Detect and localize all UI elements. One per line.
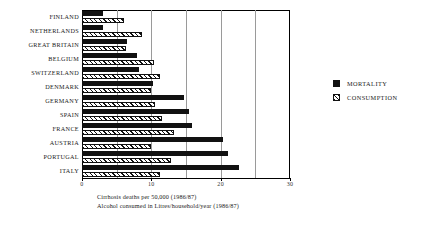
category-label: BELGIUM <box>0 52 79 66</box>
bar-pair <box>82 38 290 52</box>
bar-mortality <box>82 123 192 128</box>
legend-label-consumption: CONSUMPTION <box>347 94 397 101</box>
bar-pair <box>82 108 290 122</box>
category-label: FINLAND <box>0 10 79 24</box>
x-axis-tick-label: 30 <box>287 181 294 187</box>
bar-chart: 0102030 FINLANDNETHERLANDSGREAT BRITAINB… <box>0 0 441 226</box>
bar-mortality <box>82 11 103 16</box>
bar-consumption <box>82 74 160 79</box>
bar-mortality <box>82 165 239 170</box>
bar-pair <box>82 164 290 178</box>
bar-consumption <box>82 18 124 23</box>
bar-consumption <box>82 172 160 177</box>
x-axis-tick-label: 0 <box>80 181 83 187</box>
chart-caption: Cirrhosis deaths per 50,000 (1986/87) Al… <box>97 192 397 210</box>
bar-pair <box>82 94 290 108</box>
category-label: NETHERLANDS <box>0 24 79 38</box>
bar-consumption <box>82 130 174 135</box>
bar-mortality <box>82 53 137 58</box>
bar-row: PORTUGAL <box>0 150 441 164</box>
bar-row: ITALY <box>0 164 441 178</box>
bar-mortality <box>82 151 228 156</box>
bar-consumption <box>82 32 142 37</box>
bar-consumption <box>82 144 151 149</box>
bar-consumption <box>82 88 151 93</box>
bar-consumption <box>82 158 171 163</box>
bar-pair <box>82 24 290 38</box>
bar-consumption <box>82 60 154 65</box>
category-label: PORTUGAL <box>0 150 79 164</box>
bar-pair <box>82 136 290 150</box>
legend: MORTALITY CONSUMPTION <box>333 80 437 108</box>
category-label: FRANCE <box>0 122 79 136</box>
x-axis-tick-label: 10 <box>148 181 155 187</box>
bar-mortality <box>82 137 223 142</box>
legend-item-mortality: MORTALITY <box>333 80 437 87</box>
category-label: GERMANY <box>0 94 79 108</box>
bar-mortality <box>82 67 139 72</box>
bar-consumption <box>82 116 162 121</box>
bar-mortality <box>82 81 153 86</box>
bar-row: FINLAND <box>0 10 441 24</box>
bar-mortality <box>82 39 127 44</box>
legend-swatch-solid-icon <box>333 80 340 87</box>
bar-pair <box>82 80 290 94</box>
bar-consumption <box>82 46 126 51</box>
bar-row: NETHERLANDS <box>0 24 441 38</box>
bar-row: BELGIUM <box>0 52 441 66</box>
legend-swatch-hatched-icon <box>333 94 340 101</box>
bar-mortality <box>82 95 184 100</box>
legend-item-consumption: CONSUMPTION <box>333 94 437 101</box>
bar-row: SPAIN <box>0 108 441 122</box>
category-label: DENMARK <box>0 80 79 94</box>
category-label: SWITZERLAND <box>0 66 79 80</box>
bar-pair <box>82 66 290 80</box>
bar-row: SWITZERLAND <box>0 66 441 80</box>
category-label: AUSTRIA <box>0 136 79 150</box>
category-label: GREAT BRITAIN <box>0 38 79 52</box>
x-axis-tick-label: 20 <box>217 181 224 187</box>
caption-line-consumption: Alcohol consumed in Litres/household/yea… <box>97 201 397 210</box>
category-label: ITALY <box>0 164 79 178</box>
legend-label-mortality: MORTALITY <box>347 80 387 87</box>
bar-mortality <box>82 109 189 114</box>
bar-pair <box>82 10 290 24</box>
bar-consumption <box>82 102 155 107</box>
x-axis-line <box>82 178 291 179</box>
bar-row: FRANCE <box>0 122 441 136</box>
bar-row: GREAT BRITAIN <box>0 38 441 52</box>
bar-pair <box>82 122 290 136</box>
bar-row: AUSTRIA <box>0 136 441 150</box>
bar-mortality <box>82 25 103 30</box>
bar-pair <box>82 150 290 164</box>
category-label: SPAIN <box>0 108 79 122</box>
bar-pair <box>82 52 290 66</box>
caption-line-mortality: Cirrhosis deaths per 50,000 (1986/87) <box>97 192 397 201</box>
